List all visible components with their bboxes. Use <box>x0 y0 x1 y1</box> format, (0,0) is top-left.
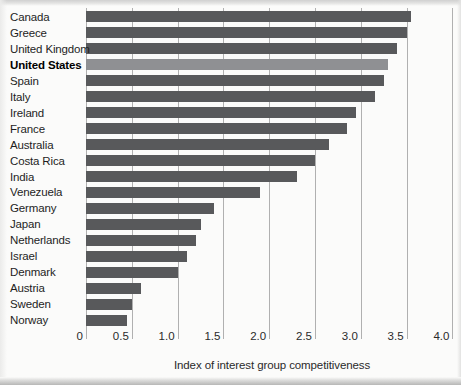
bar <box>86 11 411 22</box>
bar <box>86 187 260 198</box>
bar <box>86 251 187 262</box>
x-tick-label: 0.5 <box>113 330 129 342</box>
bar <box>86 75 384 86</box>
category-labels: CanadaGreeceUnited KingdomUnited StatesS… <box>10 9 86 328</box>
category-label: India <box>10 169 86 185</box>
category-label: Costa Rica <box>10 153 86 169</box>
x-tick-label: 3.5 <box>388 330 404 342</box>
category-label: Netherlands <box>10 232 86 248</box>
chart-row <box>86 41 458 57</box>
chart-row <box>86 25 458 41</box>
x-tick-label: 4.0 <box>433 330 449 342</box>
bar <box>86 267 178 278</box>
chart-row <box>86 200 458 216</box>
bar <box>86 155 315 166</box>
x-tick-label: 0 <box>77 330 83 342</box>
chart-row <box>86 296 458 312</box>
chart-row <box>86 232 458 248</box>
category-label: Israel <box>10 248 86 264</box>
chart-row <box>86 312 458 328</box>
x-tick-label: 1.0 <box>159 330 175 342</box>
category-label: Greece <box>10 25 86 41</box>
chart-row <box>86 57 458 73</box>
scan-edge-top <box>0 0 461 6</box>
bar <box>86 283 141 294</box>
bar <box>86 299 132 310</box>
figure: CanadaGreeceUnited KingdomUnited StatesS… <box>0 0 461 385</box>
chart-row <box>86 137 458 153</box>
category-label: Sweden <box>10 296 86 312</box>
bar <box>86 123 347 134</box>
chart-row <box>86 280 458 296</box>
x-axis-label: Index of interest group competitiveness <box>86 359 458 371</box>
category-label: Ireland <box>10 105 86 121</box>
chart-row <box>86 121 458 137</box>
bar <box>86 43 397 54</box>
category-label: Japan <box>10 216 86 232</box>
x-tick-label: 2.0 <box>250 330 266 342</box>
chart-row <box>86 9 458 25</box>
chart-row <box>86 216 458 232</box>
chart-row <box>86 73 458 89</box>
category-label: United States <box>10 57 86 73</box>
category-label: France <box>10 121 86 137</box>
category-label: Denmark <box>10 264 86 280</box>
bar <box>86 219 201 230</box>
x-tick-label: 1.5 <box>204 330 220 342</box>
category-label: Austria <box>10 280 86 296</box>
chart-row <box>86 264 458 280</box>
bar <box>86 235 196 246</box>
category-label: Canada <box>10 9 86 25</box>
bar <box>86 107 356 118</box>
category-label: Italy <box>10 89 86 105</box>
chart-row <box>86 169 458 185</box>
bar <box>86 171 297 182</box>
x-tick-label: 2.5 <box>296 330 312 342</box>
bar <box>86 203 214 214</box>
category-label: Venezuela <box>10 184 86 200</box>
bar <box>86 139 329 150</box>
chart-row <box>86 153 458 169</box>
category-label: United Kingdom <box>10 41 86 57</box>
bar <box>86 315 127 326</box>
category-label: Australia <box>10 137 86 153</box>
bar-highlighted <box>86 59 388 70</box>
bar <box>86 27 407 38</box>
scan-edge-left <box>0 0 7 385</box>
x-tick-label: 3.0 <box>342 330 358 342</box>
bar <box>86 91 375 102</box>
chart-row <box>86 248 458 264</box>
scan-edge-bottom <box>0 377 461 385</box>
category-label: Spain <box>10 73 86 89</box>
x-axis-ticks: 00.51.01.52.02.53.03.54.0 <box>0 330 461 344</box>
chart-row <box>86 105 458 121</box>
category-label: Norway <box>10 312 86 328</box>
chart-row <box>86 89 458 105</box>
chart-row <box>86 184 458 200</box>
category-label: Germany <box>10 200 86 216</box>
bar-series <box>86 9 458 328</box>
